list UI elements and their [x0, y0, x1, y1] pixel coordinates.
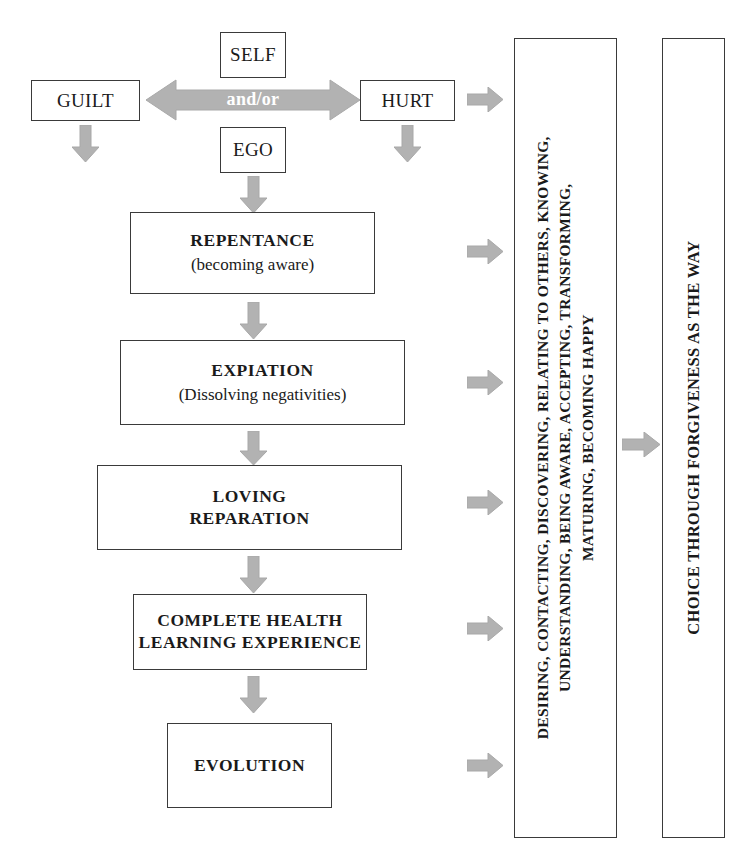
outcome-line-1: CHOICE THROUGH FORGIVENESS AS THE WAY — [682, 241, 705, 635]
box-complete-health-subtitle: LEARNING EXPERIENCE — [139, 632, 362, 654]
arrow-right-from-hurt — [467, 87, 503, 112]
process-qualities-column: DESIRING, CONTACTING, DISCOVERING, RELAT… — [514, 38, 617, 838]
box-self: SELF — [220, 32, 286, 78]
arrow-down-complete-health-to-evolution — [240, 676, 267, 713]
box-repentance-title: REPENTANCE — [190, 230, 314, 252]
forgiveness-process-diagram: GUILT SELF EGO HURT and/or REPENTANCE ( — [0, 0, 747, 867]
arrow-right-icon — [622, 432, 660, 457]
arrow-down-icon — [240, 176, 267, 213]
arrow-down-icon — [394, 125, 421, 162]
arrow-down-expiation-to-loving-reparation — [240, 431, 267, 465]
arrow-right-icon — [467, 87, 503, 112]
arrow-down-from-ego — [240, 176, 267, 213]
bidirectional-arrow-icon — [146, 78, 360, 122]
box-expiation: EXPIATION (Dissolving negativities) — [120, 340, 405, 425]
arrow-down-from-hurt — [394, 125, 421, 162]
box-loving-reparation-title: LOVING — [213, 486, 287, 508]
arrow-right-from-repentance — [467, 239, 503, 264]
box-loving-reparation: LOVING REPARATION — [97, 465, 402, 550]
box-ego-label: EGO — [233, 138, 273, 162]
outcome-column: CHOICE THROUGH FORGIVENESS AS THE WAY — [662, 38, 725, 838]
process-qualities-line-3: MATURING, BECOMING HAPPY — [577, 137, 599, 740]
process-qualities-text: DESIRING, CONTACTING, DISCOVERING, RELAT… — [532, 137, 599, 740]
box-hurt-label: HURT — [381, 89, 433, 113]
box-complete-health: COMPLETE HEALTH LEARNING EXPERIENCE — [133, 594, 367, 670]
box-evolution-title: EVOLUTION — [194, 755, 305, 777]
box-hurt: HURT — [360, 80, 455, 121]
box-complete-health-title: COMPLETE HEALTH — [157, 610, 342, 632]
box-expiation-subtitle: (Dissolving negativities) — [179, 384, 347, 405]
arrow-right-from-complete-health — [467, 616, 503, 641]
box-guilt: GUILT — [31, 80, 140, 121]
arrow-down-icon — [240, 431, 267, 465]
arrow-down-icon — [240, 302, 267, 339]
arrow-down-icon — [72, 125, 99, 162]
arrow-down-repentance-to-expiation — [240, 302, 267, 339]
arrow-right-icon — [467, 239, 503, 264]
box-ego: EGO — [220, 127, 286, 173]
box-self-label: SELF — [230, 43, 276, 67]
process-qualities-line-2: UNDERSTANDING, BEING AWARE, ACCEPTING, T… — [554, 137, 576, 740]
box-guilt-label: GUILT — [57, 89, 114, 113]
process-qualities-line-1: DESIRING, CONTACTING, DISCOVERING, RELAT… — [532, 137, 554, 740]
arrow-right-process-to-outcome — [622, 432, 660, 457]
arrow-down-loving-reparation-to-complete-health — [240, 556, 267, 593]
box-repentance-subtitle: (becoming aware) — [191, 254, 314, 275]
outcome-text: CHOICE THROUGH FORGIVENESS AS THE WAY — [682, 241, 705, 635]
bidirectional-arrow-and-or — [146, 78, 360, 122]
arrow-right-from-expiation — [467, 370, 503, 395]
arrow-down-icon — [240, 676, 267, 713]
arrow-right-icon — [467, 490, 503, 515]
arrow-down-from-guilt — [72, 125, 99, 162]
arrow-down-icon — [240, 556, 267, 593]
box-repentance: REPENTANCE (becoming aware) — [130, 212, 375, 294]
arrow-right-icon — [467, 616, 503, 641]
arrow-right-icon — [467, 753, 503, 778]
box-expiation-title: EXPIATION — [211, 360, 313, 382]
arrow-right-from-evolution — [467, 753, 503, 778]
box-evolution: EVOLUTION — [167, 723, 332, 808]
box-loving-reparation-subtitle: REPARATION — [189, 508, 309, 530]
arrow-right-from-loving-reparation — [467, 490, 503, 515]
arrow-right-icon — [467, 370, 503, 395]
